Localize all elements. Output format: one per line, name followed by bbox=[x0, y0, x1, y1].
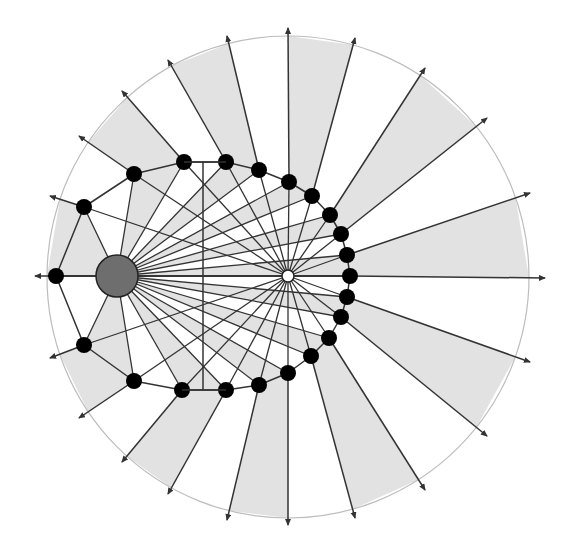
node bbox=[339, 289, 355, 305]
node bbox=[251, 377, 267, 393]
ray-arrow bbox=[288, 28, 289, 182]
node bbox=[76, 199, 92, 215]
node bbox=[251, 162, 267, 178]
node bbox=[333, 309, 349, 325]
node bbox=[48, 268, 64, 284]
node bbox=[342, 268, 358, 284]
ray-diagram bbox=[0, 0, 574, 544]
source-circle bbox=[96, 255, 138, 297]
focus-point bbox=[282, 270, 294, 282]
node bbox=[281, 174, 297, 190]
node bbox=[321, 330, 337, 346]
node bbox=[322, 207, 338, 223]
node bbox=[126, 373, 142, 389]
node bbox=[333, 226, 349, 242]
node bbox=[339, 247, 355, 263]
node bbox=[304, 188, 320, 204]
node bbox=[126, 166, 142, 182]
node bbox=[280, 365, 296, 381]
node bbox=[303, 348, 319, 364]
node bbox=[76, 337, 92, 353]
